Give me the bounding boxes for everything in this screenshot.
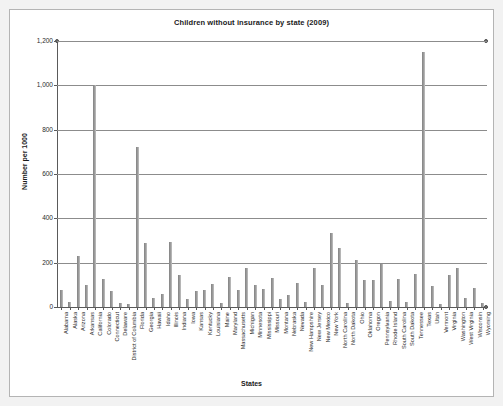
x-tick-label: Rhode Island	[392, 312, 398, 345]
bar	[422, 52, 425, 307]
x-tick-mark	[70, 307, 71, 310]
bar	[330, 233, 333, 307]
x-axis-title: States	[10, 380, 493, 387]
x-tick-mark	[457, 307, 458, 310]
bar	[178, 275, 181, 307]
x-tick-mark	[103, 307, 104, 310]
x-tick-label: Arizona	[80, 312, 86, 331]
x-tick-mark	[390, 307, 391, 310]
x-tick-mark	[339, 307, 340, 310]
bar	[363, 280, 366, 307]
x-tick-label: Texas	[426, 312, 432, 327]
x-tick-label: Utah	[434, 312, 440, 324]
x-tick-mark	[348, 307, 349, 310]
x-tick-mark	[61, 307, 62, 310]
bar	[397, 279, 400, 307]
x-tick-label: Washington	[460, 312, 466, 341]
x-tick-label: Oklahoma	[367, 312, 373, 338]
x-tick-label: New Hampshire	[308, 312, 314, 352]
x-tick-label: Massachusetts	[240, 312, 246, 349]
x-tick-label: Indiana	[181, 312, 187, 330]
x-tick-mark	[289, 307, 290, 310]
x-tick-label: District of Columbia	[131, 312, 137, 361]
x-tick-label: Georgia	[148, 312, 154, 332]
x-tick-label: New Jersey	[316, 312, 322, 341]
bar	[321, 285, 324, 307]
bar	[338, 248, 341, 307]
x-tick-label: Arkansas	[89, 312, 95, 335]
x-tick-mark	[297, 307, 298, 310]
x-tick-label: Nevada	[299, 312, 305, 331]
x-tick-mark	[221, 307, 222, 310]
x-tick-label: Virginia	[451, 312, 457, 331]
x-tick-mark	[95, 307, 96, 310]
x-tick-mark	[112, 307, 113, 310]
x-tick-mark	[415, 307, 416, 310]
x-tick-mark	[179, 307, 180, 310]
x-tick-mark	[382, 307, 383, 310]
x-tick-label: Iowa	[190, 312, 196, 324]
x-tick-label: Connecticut	[114, 312, 120, 342]
x-tick-mark	[424, 307, 425, 310]
bar	[228, 277, 231, 307]
x-tick-label: South Dakota	[409, 312, 415, 346]
bar	[448, 275, 451, 307]
bar	[296, 283, 299, 307]
x-tick-label: North Dakota	[350, 312, 356, 345]
x-tick-mark	[280, 307, 281, 310]
bar	[186, 299, 189, 307]
bar	[152, 298, 155, 307]
y-tick-label: 800	[42, 126, 53, 133]
x-tick-label: Mississippi	[266, 312, 272, 339]
x-tick-mark	[356, 307, 357, 310]
x-tick-label: Wyoming	[485, 312, 491, 335]
x-tick-label: Alaska	[72, 312, 78, 329]
x-tick-label: Kansas	[198, 312, 204, 331]
x-tick-label: Vermont	[443, 312, 449, 333]
bar	[203, 290, 206, 307]
x-tick-mark	[120, 307, 121, 310]
x-tick-label: Maryland	[232, 312, 238, 335]
bar	[195, 291, 198, 307]
x-tick-mark	[129, 307, 130, 310]
x-tick-label: South Carolina	[401, 312, 407, 349]
bar	[473, 288, 476, 307]
y-tick-label: 200	[42, 259, 53, 266]
x-tick-label: Nebraska	[291, 312, 297, 336]
bar	[431, 286, 434, 307]
bar	[169, 242, 172, 307]
x-tick-mark	[306, 307, 307, 310]
x-tick-mark	[171, 307, 172, 310]
bar	[464, 298, 467, 307]
bar	[287, 295, 290, 307]
x-tick-mark	[449, 307, 450, 310]
y-axis-tick-labels: 02004006008001,0001,200	[20, 10, 53, 406]
x-tick-mark	[264, 307, 265, 310]
bar	[93, 85, 96, 307]
bar	[144, 243, 147, 307]
x-tick-label: Louisiana	[215, 312, 221, 336]
x-tick-label: Alabama	[63, 312, 69, 334]
bar	[372, 280, 375, 307]
y-tick-label: 600	[42, 170, 53, 177]
x-tick-mark	[441, 307, 442, 310]
bar	[355, 260, 358, 307]
x-tick-mark	[365, 307, 366, 310]
x-tick-mark	[146, 307, 147, 310]
x-tick-label: Tennessee	[418, 312, 424, 339]
y-tick-label: 1,200	[37, 37, 53, 44]
x-tick-label: Illinois	[173, 312, 179, 328]
x-tick-label: Delaware	[122, 312, 128, 336]
x-tick-mark	[432, 307, 433, 310]
chart-title: Children without insurance by state (200…	[10, 18, 493, 27]
bar	[161, 294, 164, 307]
x-tick-label: Pennsylvania	[384, 312, 390, 345]
x-tick-mark	[466, 307, 467, 310]
x-tick-mark	[188, 307, 189, 310]
x-tick-label: Missouri	[274, 312, 280, 333]
x-tick-label: California	[97, 312, 103, 336]
bar	[77, 256, 80, 307]
x-tick-label: Oregon	[375, 312, 381, 331]
x-tick-mark	[238, 307, 239, 310]
x-tick-mark	[255, 307, 256, 310]
